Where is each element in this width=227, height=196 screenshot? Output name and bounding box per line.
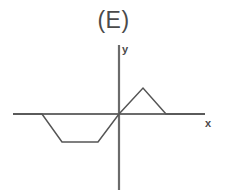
x-axis-label: x	[205, 118, 211, 129]
figure-panel: (E) y x	[0, 0, 227, 196]
y-axis-label: y	[122, 44, 128, 55]
graph-canvas	[0, 0, 227, 196]
